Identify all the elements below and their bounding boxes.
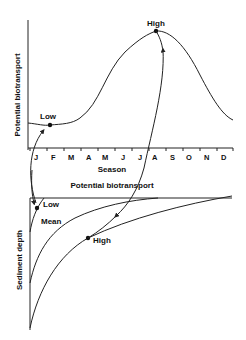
biotransport-diagram: Low High J F M A M J J A S O N D Season … (0, 0, 246, 340)
high-depth-label: High (93, 236, 111, 245)
low-label: Low (40, 112, 57, 121)
svg-text:S: S (170, 153, 175, 162)
bottom-y-label: Sediment depth (15, 230, 24, 290)
high-connector-arrow-up (144, 50, 163, 168)
low-depth-point (35, 206, 39, 210)
svg-text:M: M (68, 153, 74, 162)
svg-text:D: D (221, 153, 227, 162)
depth-profile-chart: Potential biotransport Low Mean High Sed… (15, 181, 232, 330)
svg-text:A: A (152, 153, 158, 162)
mean-depth-label: Mean (41, 217, 62, 226)
season-label: Season (98, 165, 127, 174)
month-labels: J F M A M J J A S O N D (34, 153, 227, 162)
svg-text:N: N (204, 153, 209, 162)
low-depth-label: Low (43, 200, 60, 209)
svg-text:O: O (186, 153, 192, 162)
high-label: High (147, 19, 165, 28)
high-connector-top (156, 31, 163, 52)
bottom-x-label: Potential biotransport (70, 181, 153, 190)
svg-text:F: F (51, 153, 56, 162)
seasonal-chart: Low High J F M A M J J A S O N D Season … (13, 19, 233, 174)
svg-text:A: A (86, 153, 92, 162)
top-y-label: Potential biotransport (13, 53, 22, 136)
high-depth-curve (30, 196, 232, 328)
seasonal-curve (28, 31, 233, 125)
low-depth-curve (30, 198, 44, 232)
svg-text:J: J (34, 153, 38, 162)
svg-text:M: M (102, 153, 108, 162)
high-connector-arrow-down (116, 168, 144, 216)
svg-text:J: J (138, 153, 142, 162)
high-connector-bottom (88, 216, 116, 238)
svg-text:J: J (121, 153, 125, 162)
low-point (48, 123, 52, 127)
